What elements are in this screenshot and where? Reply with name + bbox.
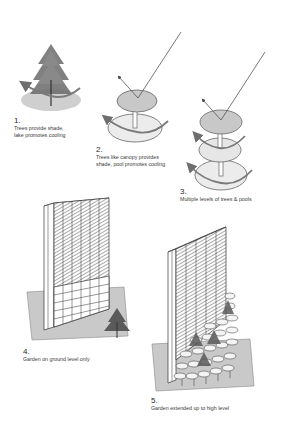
panel-number: 4. xyxy=(23,347,133,356)
caption-line: shade, pool promotes cooling xyxy=(96,161,165,167)
canopy-ellipse xyxy=(117,90,157,112)
caption-line: Trees provide shade, xyxy=(14,125,64,131)
caption-panel-1: 1. Trees provide shade, lake promotes co… xyxy=(14,116,94,138)
panel-2-canopy-and-pool xyxy=(106,32,181,142)
panel-number: 5. xyxy=(151,396,271,405)
caption-line: Trees like canopy provides xyxy=(96,154,159,160)
sun-ray-in xyxy=(138,32,181,98)
panel-4-tower-ground-garden xyxy=(27,198,130,340)
caption-line: Garden extended up to high level xyxy=(151,405,229,411)
caption-panel-5: 5. Garden extended up to high level xyxy=(151,396,271,412)
panel-5-tower-extended-garden xyxy=(152,227,254,391)
caption-line: lake promotes cooling xyxy=(14,132,66,138)
caption-panel-4: 4. Garden on ground level only xyxy=(23,347,133,363)
sun-ray-in xyxy=(221,52,265,120)
panel-3-multiple-levels xyxy=(190,52,265,190)
caption-panel-2: 2. Trees like canopy provides shade, poo… xyxy=(96,145,186,167)
canopy-ellipse-top xyxy=(200,110,242,134)
caption-panel-3: 3. Multiple levels of trees & pools xyxy=(180,187,280,203)
caption-line: Multiple levels of trees & pools xyxy=(180,196,252,202)
panel-number: 3. xyxy=(180,187,280,196)
panel-1-tree-and-lake xyxy=(21,44,81,111)
panel-number: 1. xyxy=(14,116,94,125)
panel-number: 2. xyxy=(96,145,186,154)
sky-garden-diagram: 1. Trees provide shade, lake promotes co… xyxy=(0,0,283,421)
caption-line: Garden on ground level only xyxy=(23,356,90,362)
